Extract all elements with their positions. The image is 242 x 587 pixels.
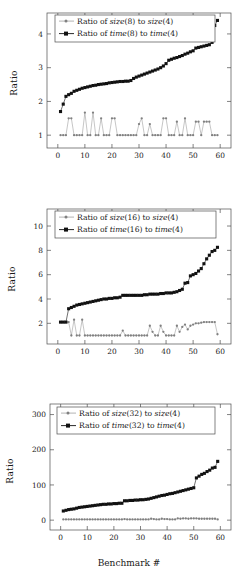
x-tick-label: 10 (83, 533, 93, 542)
x-tick-label: 60 (215, 347, 225, 356)
x-tick-label: 50 (188, 151, 198, 160)
y-tick-label: 2 (38, 319, 43, 328)
series-size (59, 111, 218, 136)
x-axis-label: Benchmark # (8, 558, 242, 568)
series-size (59, 319, 218, 337)
legend-3: Ratio of size(32) to size(4)Ratio of tim… (57, 407, 215, 434)
legend-2: Ratio of size(16) to size(4)Ratio of tim… (55, 211, 216, 238)
x-tick-label: 40 (162, 533, 172, 542)
chart-panel-3: Ratio 01002003000102030405060Ratio of si… (0, 392, 242, 587)
legend-entry-label: Ratio of time(16) to time(4) (77, 225, 183, 234)
figure-container: Ratio 12340102030405060Ratio of size(8) … (0, 0, 242, 587)
series-time (59, 246, 219, 324)
y-tick-label: 6 (38, 270, 43, 279)
y-tick-label: 0 (41, 516, 46, 525)
x-tick-label: 50 (188, 347, 198, 356)
x-tick-label: 40 (161, 151, 171, 160)
legend-entry-label: Ratio of size(32) to size(4) (79, 409, 180, 418)
x-tick-label: 60 (216, 533, 226, 542)
y-tick-label: 300 (32, 410, 46, 419)
chart-panel-1: Ratio 12340102030405060Ratio of size(8) … (0, 0, 242, 196)
x-tick-label: 40 (161, 347, 171, 356)
x-tick-label: 20 (109, 533, 119, 542)
y-tick-label: 10 (34, 222, 44, 231)
y-tick-label: 4 (38, 30, 43, 39)
legend-entry-label: Ratio of time(8) to time(4) (77, 29, 178, 38)
x-tick-label: 10 (80, 347, 90, 356)
y-tick-label: 2 (38, 97, 43, 106)
series-time (62, 460, 219, 513)
plot-area-2: 2468100102030405060Ratio of size(16) to … (0, 196, 242, 392)
y-tick-label: 8 (38, 246, 43, 255)
x-tick-label: 0 (58, 533, 63, 542)
y-tick-label: 100 (32, 481, 46, 490)
x-tick-label: 0 (55, 347, 60, 356)
chart-panel-2: Ratio 2468100102030405060Ratio of size(1… (0, 196, 242, 392)
legend-entry-label: Ratio of size(16) to size(4) (77, 213, 178, 222)
x-tick-label: 30 (136, 533, 146, 542)
legend-1: Ratio of size(8) to size(4)Ratio of time… (55, 15, 215, 42)
y-tick-label: 3 (38, 63, 43, 72)
plot-area-1: 12340102030405060Ratio of size(8) to siz… (0, 0, 242, 196)
legend-entry-label: Ratio of time(32) to time(4) (79, 421, 185, 430)
x-tick-label: 30 (134, 151, 144, 160)
x-tick-label: 30 (134, 347, 144, 356)
x-tick-label: 0 (55, 151, 60, 160)
series-size (62, 517, 219, 520)
x-tick-label: 20 (107, 347, 117, 356)
legend-entry-label: Ratio of size(8) to size(4) (77, 17, 173, 26)
x-tick-label: 20 (107, 151, 117, 160)
y-tick-label: 1 (38, 131, 43, 140)
y-tick-label: 200 (32, 445, 46, 454)
plot-area-3: 01002003000102030405060Ratio of size(32)… (0, 392, 242, 572)
y-tick-label: 4 (38, 295, 43, 304)
x-tick-label: 10 (80, 151, 90, 160)
x-tick-label: 50 (189, 533, 199, 542)
x-tick-label: 60 (215, 151, 225, 160)
